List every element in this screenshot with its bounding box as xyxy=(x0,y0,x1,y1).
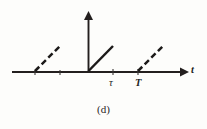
ramp-next-period xyxy=(138,46,163,71)
figure-panel-d: τ T t (d) xyxy=(0,0,207,129)
ramp-previous-period xyxy=(35,46,60,71)
axis-label-time: t xyxy=(191,65,194,76)
ramp-main-period xyxy=(89,46,114,71)
tick-label-tau: τ xyxy=(109,78,113,89)
tick-label-period-T: T xyxy=(135,78,141,89)
amplitude-axis-arrow-icon xyxy=(84,11,93,20)
time-axis-arrow-icon xyxy=(180,67,189,76)
figure-caption: (d) xyxy=(0,104,207,115)
